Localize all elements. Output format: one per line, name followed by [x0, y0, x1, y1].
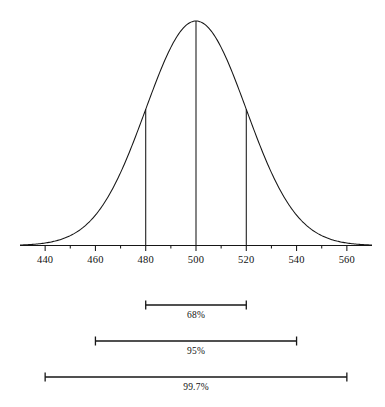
interval-bar-group: 68%95%99.7%	[45, 301, 347, 393]
x-axis-tick-label-460: 460	[87, 254, 103, 265]
interval-label-99.7%: 99.7%	[183, 382, 209, 392]
distribution-chart: 440460480500520540560 68%95%99.7%	[0, 0, 385, 407]
interval-bar-68%: 68%	[146, 301, 247, 321]
x-axis-tick-label-520: 520	[238, 254, 254, 265]
x-axis-tick-label-500: 500	[188, 254, 204, 265]
x-axis-tick-group	[45, 246, 347, 252]
interval-bar-95%: 95%	[95, 337, 296, 357]
x-axis-tick-label-560: 560	[339, 254, 355, 265]
figure-caption	[6, 396, 378, 407]
x-axis-tick-label-480: 480	[138, 254, 154, 265]
interval-bar-99.7%: 99.7%	[45, 373, 347, 393]
vertical-marker-group	[146, 21, 247, 246]
x-axis-tick-label-group: 440460480500520540560	[37, 254, 355, 265]
x-axis-tick-label-540: 540	[288, 254, 304, 265]
figure-normal-distribution: 440460480500520540560 68%95%99.7%	[0, 0, 385, 407]
x-axis-tick-label-440: 440	[37, 254, 53, 265]
interval-label-95%: 95%	[187, 346, 205, 356]
interval-label-68%: 68%	[187, 310, 205, 320]
